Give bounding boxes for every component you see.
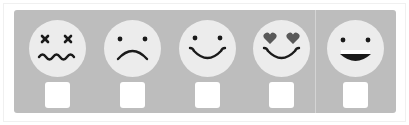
rating-option-dizzy bbox=[20, 10, 94, 113]
rating-checkbox-grin[interactable] bbox=[343, 82, 368, 108]
rating-option-grin bbox=[318, 10, 392, 113]
rating-option-love bbox=[244, 10, 318, 113]
emoji-rating-panel bbox=[14, 10, 396, 113]
heart-eyes-face-icon bbox=[253, 20, 310, 77]
smiling-face-icon bbox=[179, 20, 236, 77]
grinning-face-icon bbox=[327, 20, 384, 77]
rating-option-sad bbox=[95, 10, 169, 113]
dizzy-face-icon bbox=[29, 20, 86, 77]
rating-checkbox-dizzy[interactable] bbox=[45, 82, 70, 108]
rating-option-happy bbox=[170, 10, 244, 113]
rating-checkbox-sad[interactable] bbox=[120, 82, 145, 108]
divider bbox=[315, 10, 316, 113]
rating-checkbox-happy[interactable] bbox=[195, 82, 220, 108]
rating-checkbox-love[interactable] bbox=[269, 82, 294, 108]
frowning-face-icon bbox=[104, 20, 161, 77]
